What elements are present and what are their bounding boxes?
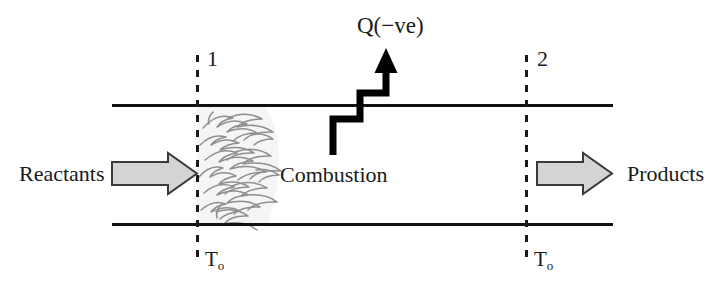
combustion-zone-label: Combustion	[280, 164, 388, 186]
products-flow-arrow-icon	[537, 153, 612, 194]
combustion-chamber-diagram: 1 2 To To Reactants Products Q(−ve) Comb…	[0, 0, 726, 290]
station-label-1: 1	[207, 48, 218, 70]
flame-cluster-icon	[197, 106, 281, 230]
products-label: Products	[627, 163, 704, 185]
station-label-2: 2	[537, 48, 548, 70]
diagram-canvas	[0, 0, 726, 290]
heat-out-label: Q(−ve)	[357, 14, 424, 37]
heat-out-arrow-icon	[333, 48, 398, 155]
inlet-temperature-label: To	[205, 249, 224, 270]
outlet-temperature-subscript: o	[547, 258, 554, 273]
outlet-temperature-symbol: T	[534, 247, 547, 271]
reactants-label: Reactants	[19, 163, 105, 185]
outlet-temperature-label: To	[534, 249, 553, 270]
inlet-temperature-symbol: T	[205, 247, 218, 271]
inlet-temperature-subscript: o	[218, 258, 225, 273]
reactants-flow-arrow-icon	[112, 153, 197, 194]
